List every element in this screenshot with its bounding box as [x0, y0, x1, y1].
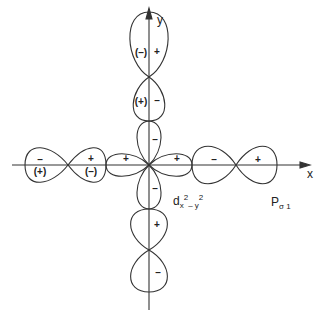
- x-axis-label: x: [307, 168, 313, 180]
- d-label-sup2: 2: [199, 193, 203, 202]
- sign-top-outer-right: +: [154, 47, 160, 57]
- d-label-sub1: x: [180, 201, 184, 210]
- sign-d-down: –: [152, 184, 158, 194]
- sign-top-inner-right: –: [154, 96, 160, 106]
- y-axis-arrow-icon: [146, 8, 152, 19]
- sign-d-right: +: [174, 154, 180, 164]
- sign-bottom-outer: –: [155, 268, 161, 278]
- sign-left-inner-bottom: (–): [85, 167, 97, 177]
- d-label-base: d: [173, 194, 180, 208]
- sign-d-up: –: [152, 135, 158, 145]
- sign-bottom-inner: +: [154, 220, 160, 230]
- sign-left-inner-top: +: [88, 154, 94, 164]
- sign-left-outer-top: –: [37, 155, 43, 165]
- y-axis-label: y: [157, 14, 163, 26]
- sign-d-left: +: [123, 154, 129, 164]
- sign-right-outer: +: [255, 155, 261, 165]
- d-orbital-label: dx2– y2: [173, 194, 203, 210]
- sign-top-outer-left: (–): [135, 48, 147, 58]
- orbital-diagram: [0, 0, 325, 317]
- sign-top-inner-left: (+): [135, 97, 148, 107]
- d-label-sub2: – y: [188, 201, 199, 210]
- p-label-sub: σ 1: [279, 202, 291, 211]
- p-label-base: P: [271, 195, 279, 209]
- p-orbital-label: Pσ 1: [271, 196, 291, 211]
- sign-left-outer-bottom: (+): [34, 167, 47, 177]
- sign-right-inner: –: [211, 155, 217, 165]
